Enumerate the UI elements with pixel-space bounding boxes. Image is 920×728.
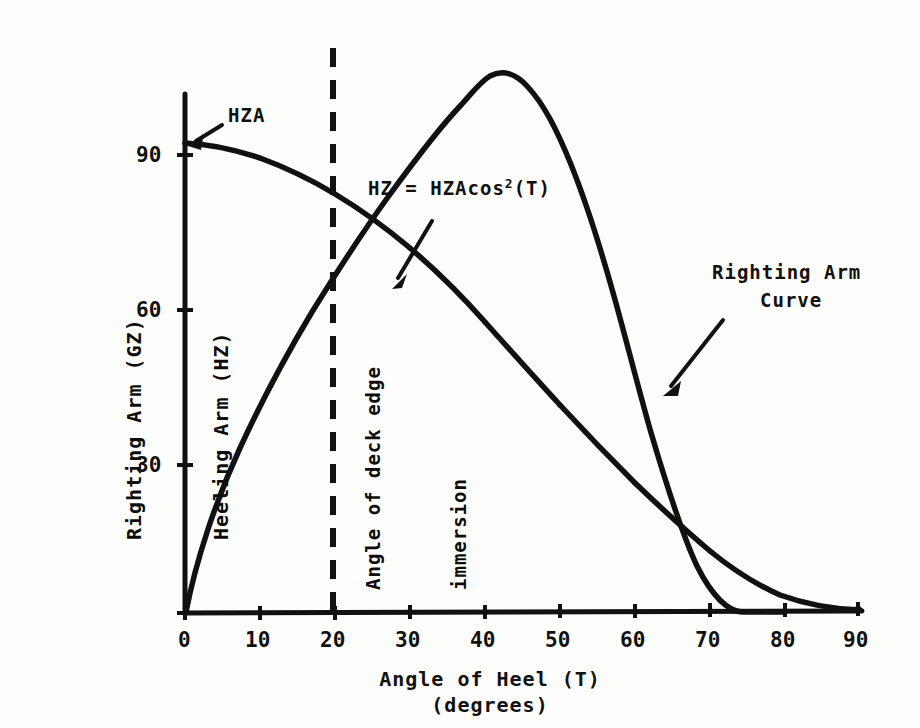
y-axis-title-line2: Heeling Arm (HZ) bbox=[207, 318, 236, 540]
x-tick-label-10: 10 bbox=[245, 628, 270, 652]
x-tick-label-90: 90 bbox=[843, 628, 868, 652]
x-tick-label-20: 20 bbox=[320, 628, 345, 652]
x-tick-label-40: 40 bbox=[470, 628, 495, 652]
x-tick-label-0: 0 bbox=[178, 628, 191, 652]
x-tick-label-70: 70 bbox=[695, 628, 720, 652]
deck-edge-immersion-line2: immersion bbox=[445, 366, 474, 590]
chart-figure: 90 60 30 0 10 20 30 40 50 60 70 80 90 An… bbox=[0, 0, 920, 728]
hz-formula-suffix: (T) bbox=[514, 177, 551, 199]
deck-edge-immersion-label: Angle of deck edge immersion bbox=[302, 366, 530, 590]
x-axis-subtitle: (degrees) bbox=[340, 694, 640, 717]
y-axis-title-line1: Righting Arm (GZ) bbox=[120, 318, 149, 540]
x-tick-label-80: 80 bbox=[770, 628, 795, 652]
righting-arm-curve-label-line2: Curve bbox=[760, 290, 822, 312]
y-tick-label-90: 90 bbox=[136, 143, 161, 167]
deck-edge-immersion-line1: Angle of deck edge bbox=[359, 366, 388, 590]
x-tick-label-30: 30 bbox=[395, 628, 420, 652]
hz-formula-prefix: HZ = HZAcos bbox=[368, 177, 505, 199]
righting-arm-curve-label-line1: Righting Arm bbox=[712, 262, 861, 284]
hz-formula-label: HZ = HZAcos2(T) bbox=[368, 177, 551, 200]
x-tick-label-60: 60 bbox=[620, 628, 645, 652]
x-tick-label-50: 50 bbox=[545, 628, 570, 652]
x-axis-title: Angle of Heel (T) bbox=[340, 668, 640, 691]
righting-arm-arrow bbox=[663, 320, 723, 396]
y-axis-title: Righting Arm (GZ) Heeling Arm (HZ) bbox=[62, 318, 294, 540]
hz-formula-exponent: 2 bbox=[505, 176, 514, 191]
hza-label: HZA bbox=[228, 105, 265, 127]
hz-formula-arrow bbox=[392, 221, 432, 289]
